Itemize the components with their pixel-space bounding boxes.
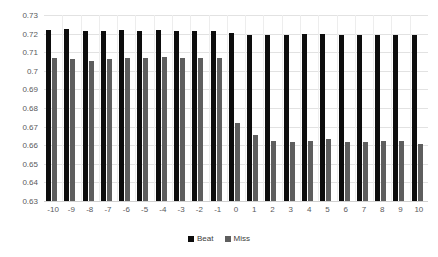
- bar-miss: [363, 142, 368, 201]
- bar-miss: [198, 58, 203, 201]
- bar-group: [209, 15, 227, 201]
- bar-beat: [174, 31, 179, 201]
- bar-miss: [107, 59, 112, 201]
- bar-miss: [308, 141, 313, 201]
- bar-beat: [229, 33, 234, 201]
- y-axis-tick-label: 0.68: [22, 104, 38, 113]
- bar-group: [154, 15, 172, 201]
- bar-beat: [412, 35, 417, 201]
- bar-group: [44, 15, 62, 201]
- x-axis-tick-label: -6: [123, 205, 130, 214]
- bar-chart: 0.730.720.710.70.690.680.670.660.650.640…: [0, 0, 438, 257]
- bar-group: [391, 15, 409, 201]
- x-axis: -10-9-8-7-6-5-4-3-2-1012345678910: [44, 203, 428, 219]
- bar-group: [355, 15, 373, 201]
- bar-group: [282, 15, 300, 201]
- bar-beat: [375, 35, 380, 201]
- gridline: [44, 201, 428, 202]
- bar-group: [190, 15, 208, 201]
- legend-label: Beat: [197, 234, 213, 243]
- bar-beat: [357, 35, 362, 201]
- legend-label: Miss: [234, 234, 250, 243]
- bar-beat: [302, 34, 307, 201]
- bar-group: [172, 15, 190, 201]
- bar-group: [337, 15, 355, 201]
- bar-beat: [284, 35, 289, 201]
- bar-beat: [247, 35, 252, 201]
- bar-group: [245, 15, 263, 201]
- bar-beat: [192, 31, 197, 201]
- bar-beat: [393, 35, 398, 201]
- y-axis-tick-label: 0.71: [22, 48, 38, 57]
- bar-miss: [162, 57, 167, 201]
- x-axis-tick-label: -5: [141, 205, 148, 214]
- bar-group: [300, 15, 318, 201]
- bar-beat: [83, 31, 88, 201]
- bar-miss: [52, 58, 57, 201]
- bar-miss: [290, 142, 295, 201]
- bar-miss: [125, 58, 130, 201]
- x-axis-tick-label: 4: [307, 205, 311, 214]
- bar-miss: [271, 141, 276, 201]
- bar-miss: [345, 142, 350, 201]
- x-axis-tick-label: 1: [252, 205, 256, 214]
- y-axis: 0.730.720.710.70.690.680.670.660.650.640…: [0, 0, 42, 216]
- bar-beat: [46, 30, 51, 201]
- legend-swatch-icon: [188, 236, 194, 242]
- bar-miss: [399, 141, 404, 201]
- legend-item-miss[interactable]: Miss: [225, 234, 250, 243]
- x-axis-tick-label: 2: [270, 205, 274, 214]
- y-axis-tick-label: 0.67: [22, 122, 38, 131]
- bar-group: [227, 15, 245, 201]
- y-axis-tick-label: 0.65: [22, 159, 38, 168]
- plot-area: [44, 15, 428, 201]
- bar-group: [135, 15, 153, 201]
- x-axis-tick-label: -4: [159, 205, 166, 214]
- bar-group: [99, 15, 117, 201]
- y-axis-tick-label: 0.66: [22, 141, 38, 150]
- x-axis-tick-label: 3: [289, 205, 293, 214]
- bar-beat: [265, 35, 270, 201]
- x-axis-tick-label: -1: [214, 205, 221, 214]
- bar-beat: [137, 31, 142, 201]
- x-axis-tick-label: 7: [362, 205, 366, 214]
- bar-miss: [253, 135, 258, 201]
- bar-beat: [339, 35, 344, 201]
- bar-beat: [211, 31, 216, 201]
- x-axis-tick-label: -3: [178, 205, 185, 214]
- bar-miss: [70, 59, 75, 201]
- chart-legend: BeatMiss: [0, 234, 438, 243]
- bar-group: [62, 15, 80, 201]
- x-axis-tick-label: 8: [380, 205, 384, 214]
- x-axis-tick-label: 6: [343, 205, 347, 214]
- x-axis-tick-label: -2: [196, 205, 203, 214]
- x-axis-tick-label: -10: [47, 205, 59, 214]
- y-axis-tick-label: 0.63: [22, 197, 38, 206]
- y-axis-tick-label: 0.7: [27, 66, 38, 75]
- y-axis-tick-label: 0.64: [22, 178, 38, 187]
- bar-group: [318, 15, 336, 201]
- x-axis-tick-label: 9: [398, 205, 402, 214]
- y-axis-tick-label: 0.73: [22, 11, 38, 20]
- x-axis-tick-label: 0: [234, 205, 238, 214]
- y-axis-tick-label: 0.72: [22, 29, 38, 38]
- x-axis-tick-label: -9: [68, 205, 75, 214]
- bar-group: [373, 15, 391, 201]
- bar-miss: [217, 58, 222, 201]
- bar-beat: [156, 30, 161, 201]
- bar-miss: [143, 58, 148, 201]
- legend-item-beat[interactable]: Beat: [188, 234, 213, 243]
- bar-miss: [381, 141, 386, 201]
- x-axis-tick-label: -7: [104, 205, 111, 214]
- bar-miss: [326, 139, 331, 201]
- x-axis-tick-label: 5: [325, 205, 329, 214]
- bar-beat: [64, 29, 69, 201]
- bar-miss: [180, 58, 185, 201]
- bar-group: [117, 15, 135, 201]
- y-axis-tick-label: 0.69: [22, 85, 38, 94]
- bar-beat: [119, 30, 124, 201]
- x-axis-tick-label: -8: [86, 205, 93, 214]
- bar-group: [263, 15, 281, 201]
- bar-miss: [235, 123, 240, 201]
- x-axis-tick-label: 10: [414, 205, 423, 214]
